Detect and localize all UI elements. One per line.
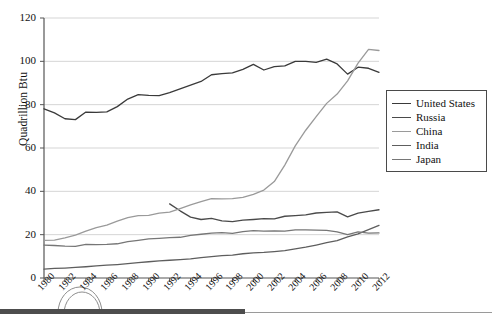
legend-color-swatch xyxy=(392,159,411,160)
chart-legend: United StatesRussiaChinaIndiaJapan xyxy=(386,90,487,172)
legend-item[interactable]: Japan xyxy=(392,152,482,166)
y-tick-label: 100 xyxy=(10,54,36,66)
legend-item[interactable]: China xyxy=(392,124,482,138)
legend-item[interactable]: United States xyxy=(392,96,482,110)
legend-item[interactable]: Russia xyxy=(392,110,482,124)
chart-container: Quadrillion Btu 020406080100120 19801982… xyxy=(0,0,492,321)
legend-color-swatch xyxy=(392,103,411,104)
legend-label: Japan xyxy=(416,153,441,165)
y-tick-label: 80 xyxy=(10,98,36,110)
series-line xyxy=(44,230,379,246)
legend-label: Russia xyxy=(416,111,445,123)
y-tick-label: 120 xyxy=(10,11,36,23)
series-line xyxy=(170,204,379,222)
legend-color-swatch xyxy=(392,117,411,118)
y-tick-label: 0 xyxy=(10,271,36,283)
legend-item[interactable]: India xyxy=(392,138,482,152)
legend-color-swatch xyxy=(392,145,411,146)
y-tick-label: 40 xyxy=(10,184,36,196)
series-line xyxy=(44,59,379,119)
data-series xyxy=(44,49,379,269)
legend-label: United States xyxy=(416,97,475,109)
legend-color-swatch xyxy=(392,131,411,132)
legend-label: India xyxy=(416,139,439,151)
y-tick-label: 20 xyxy=(10,228,36,240)
gridlines xyxy=(44,18,379,235)
series-line xyxy=(44,225,379,269)
y-tick-label: 60 xyxy=(10,141,36,153)
legend-label: China xyxy=(416,125,442,137)
bottom-progress-bar[interactable] xyxy=(0,309,245,314)
